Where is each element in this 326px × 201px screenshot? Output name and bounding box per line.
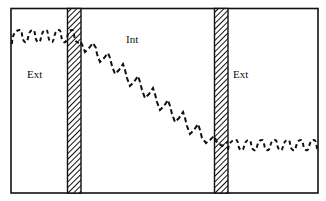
right-membrane: [215, 9, 229, 194]
middle-compartment-label: Int: [126, 33, 138, 45]
membrane-diagram: [0, 0, 326, 201]
left-compartment-label: Ext: [27, 68, 42, 80]
right-compartment-label: Ext: [233, 68, 248, 80]
outer-frame: [11, 9, 318, 194]
